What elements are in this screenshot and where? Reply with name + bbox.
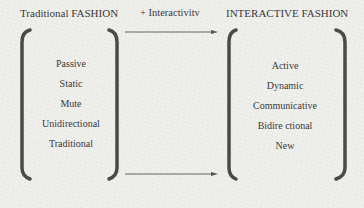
traditional-attributes-list: Passive Static Mute Unidirectional Tradi… [27, 54, 115, 154]
list-item: Active [272, 56, 299, 76]
list-item: Dynamic [267, 76, 304, 96]
list-item: New [276, 136, 295, 156]
interactive-attributes-list: Active Dynamic Communicative Bidire ctio… [228, 56, 342, 156]
list-item: Mute [60, 94, 81, 114]
list-item: Passive [56, 54, 86, 74]
list-item: Traditional [49, 134, 93, 154]
list-item: Bidire ctional [258, 116, 313, 136]
bottom-arrow [125, 172, 218, 176]
top-arrow [125, 30, 218, 34]
list-item: Unidirectional [42, 114, 100, 134]
list-item: Static [60, 74, 83, 94]
list-item: Communicative [253, 96, 317, 116]
